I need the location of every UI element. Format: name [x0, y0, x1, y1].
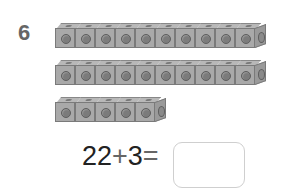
plus-operator: + — [112, 141, 128, 171]
cube-front-face — [95, 28, 115, 48]
cube-hole-icon — [121, 71, 131, 81]
cube-peg-icon — [158, 106, 165, 117]
cube-row-3 — [55, 97, 167, 123]
left-operand: 22 — [82, 141, 112, 171]
cube-front-face — [175, 65, 195, 85]
unit-cube — [135, 23, 155, 49]
cube-hole-icon — [221, 71, 231, 81]
unit-cube — [75, 60, 95, 86]
cube-front-face — [155, 28, 175, 48]
cube-front-face — [75, 102, 95, 122]
cube-front-face — [195, 28, 215, 48]
equation: 22+3= — [82, 141, 159, 172]
unit-cube — [215, 23, 235, 49]
cube-row-1 — [55, 23, 267, 49]
cube-row-end — [155, 97, 167, 123]
unit-cube — [55, 97, 75, 123]
cube-row-2 — [55, 60, 267, 86]
unit-cube — [195, 23, 215, 49]
unit-cube — [195, 60, 215, 86]
cube-hole-icon — [221, 34, 231, 44]
unit-cube — [235, 60, 255, 86]
cube-front-face — [75, 28, 95, 48]
unit-cube — [115, 97, 135, 123]
cube-front-face — [135, 102, 155, 122]
unit-cube — [115, 60, 135, 86]
unit-cube — [135, 97, 155, 123]
cube-hole-icon — [81, 108, 91, 118]
cube-hole-icon — [101, 34, 111, 44]
cube-hole-icon — [161, 71, 171, 81]
cube-hole-icon — [81, 71, 91, 81]
unit-cube — [55, 23, 75, 49]
cube-hole-icon — [61, 34, 71, 44]
cube-hole-icon — [181, 34, 191, 44]
cube-front-face — [55, 28, 75, 48]
unit-cube — [215, 60, 235, 86]
cube-hole-icon — [141, 108, 151, 118]
cube-front-face — [55, 65, 75, 85]
cube-front-face — [75, 65, 95, 85]
unit-cube — [95, 23, 115, 49]
cube-front-face — [95, 65, 115, 85]
cube-peg-icon — [258, 32, 265, 43]
cube-row-end — [255, 23, 267, 49]
unit-cube — [155, 60, 175, 86]
cube-front-face — [115, 28, 135, 48]
unit-cube — [175, 60, 195, 86]
cube-front-face — [135, 65, 155, 85]
cube-hole-icon — [241, 71, 251, 81]
cube-front-face — [135, 28, 155, 48]
cube-hole-icon — [81, 34, 91, 44]
cube-front-face — [55, 102, 75, 122]
cube-front-face — [155, 65, 175, 85]
cube-hole-icon — [141, 71, 151, 81]
unit-cube — [95, 60, 115, 86]
unit-cube — [135, 60, 155, 86]
cube-hole-icon — [61, 108, 71, 118]
unit-cube — [235, 23, 255, 49]
cube-hole-icon — [201, 71, 211, 81]
right-operand: 3 — [128, 141, 143, 171]
answer-input-box[interactable] — [173, 142, 245, 188]
cube-hole-icon — [61, 71, 71, 81]
cube-front-face — [115, 65, 135, 85]
unit-cube — [95, 97, 115, 123]
cube-front-face — [235, 65, 255, 85]
cube-front-face — [195, 65, 215, 85]
cube-hole-icon — [121, 34, 131, 44]
cube-hole-icon — [101, 108, 111, 118]
cube-hole-icon — [181, 71, 191, 81]
unit-cube — [75, 97, 95, 123]
cube-hole-icon — [101, 71, 111, 81]
cube-front-face — [95, 102, 115, 122]
cube-hole-icon — [121, 108, 131, 118]
cube-front-face — [175, 28, 195, 48]
cube-front-face — [215, 28, 235, 48]
unit-cube — [175, 23, 195, 49]
cube-front-face — [115, 102, 135, 122]
cube-hole-icon — [141, 34, 151, 44]
cube-peg-icon — [258, 69, 265, 80]
cube-front-face — [215, 65, 235, 85]
unit-cube — [75, 23, 95, 49]
equals-sign: = — [143, 141, 159, 171]
unit-cube — [55, 60, 75, 86]
cube-hole-icon — [201, 34, 211, 44]
unit-cube — [155, 23, 175, 49]
question-number: 6 — [18, 20, 30, 46]
cube-hole-icon — [161, 34, 171, 44]
cube-front-face — [235, 28, 255, 48]
cube-row-end — [255, 60, 267, 86]
unit-cube — [115, 23, 135, 49]
cube-hole-icon — [241, 34, 251, 44]
